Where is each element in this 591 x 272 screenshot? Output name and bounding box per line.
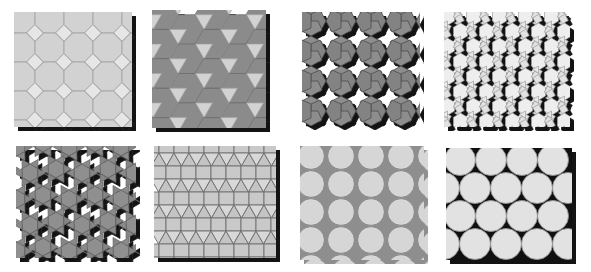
tile-group [144,140,294,270]
panel-rhombitrihexagonal-tiling[interactable] [444,12,578,135]
tile-group [119,0,315,147]
cairo-pentagonal-tiling-graphic [302,12,428,134]
panel-trihexagonal-tiling[interactable] [152,10,274,136]
rhombitrihexagonal-tiling-graphic [444,12,578,135]
panel-cairo-pentagonal-tiling[interactable] [302,12,428,134]
panel-hexagonal-circle-packing[interactable] [446,148,580,268]
panel-square-circle-packing[interactable] [300,146,432,268]
square-circle-packing-graphic [300,146,432,268]
faint-top-caption [150,0,350,9]
truncated-square-tiling-graphic [14,12,140,135]
tile-group [6,4,160,158]
tile-group [296,142,446,272]
elongated-triangular-tiling-graphic [154,146,284,266]
panel-snub-hexagonal-tiling[interactable] [16,146,144,266]
panel-truncated-square-tiling[interactable] [14,12,140,135]
tile-group [429,144,584,264]
panel-elongated-triangular-tiling[interactable] [154,146,284,266]
trihexagonal-tiling-graphic [152,10,274,136]
hexagonal-circle-packing-graphic [446,148,580,268]
figure-sheet [0,0,591,272]
snub-hexagonal-tiling-graphic [16,146,144,266]
